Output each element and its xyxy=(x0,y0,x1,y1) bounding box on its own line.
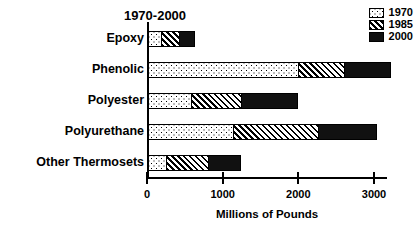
x-axis-tick-3000 xyxy=(373,172,375,184)
category-label-epoxy: Epoxy xyxy=(106,31,144,45)
x-axis-tick-label-3000: 3000 xyxy=(362,188,386,200)
bar-segment-1970[interactable] xyxy=(149,32,162,46)
bar-segment-1970[interactable] xyxy=(149,125,234,139)
x-axis-tick-label-0: 0 xyxy=(144,188,150,200)
bar-segment-2000[interactable] xyxy=(345,63,390,77)
x-axis-line xyxy=(147,177,387,179)
x-axis-title: Millions of Pounds xyxy=(147,208,387,220)
category-label-other-thermosets: Other Thermosets xyxy=(36,155,144,169)
bar-segment-2000[interactable] xyxy=(180,32,194,46)
chart-title: 1970-2000 xyxy=(0,8,310,23)
bar-row-polyurethane[interactable] xyxy=(148,124,377,140)
legend-label-1970: 1970 xyxy=(389,7,413,18)
bar-segment-1970[interactable] xyxy=(149,94,192,108)
plot-area: 0100020003000 xyxy=(147,22,387,177)
dotted-swatch-icon xyxy=(369,8,384,18)
category-label-phenolic: Phenolic xyxy=(92,62,144,76)
bar-segment-1970[interactable] xyxy=(149,63,299,77)
x-axis-tick-label-2000: 2000 xyxy=(286,188,310,200)
category-label-polyester: Polyester xyxy=(88,93,144,107)
bar-row-phenolic[interactable] xyxy=(148,62,391,78)
bar-segment-2000[interactable] xyxy=(209,156,240,170)
bar-segment-2000[interactable] xyxy=(242,94,296,108)
legend-label-1985: 1985 xyxy=(389,19,413,30)
bar-segment-2000[interactable] xyxy=(319,125,376,139)
bar-row-epoxy[interactable] xyxy=(148,31,195,47)
x-axis-tick-0 xyxy=(146,172,148,184)
bar-segment-1985[interactable] xyxy=(234,125,320,139)
x-axis-tick-2000 xyxy=(297,172,299,184)
legend-item-1970: 1970 xyxy=(369,7,413,18)
bar-segment-1985[interactable] xyxy=(167,156,209,170)
x-axis-tick-label-1000: 1000 xyxy=(210,188,234,200)
x-axis-tick-1000 xyxy=(222,172,224,184)
bar-segment-1970[interactable] xyxy=(149,156,167,170)
legend-label-2000: 2000 xyxy=(389,31,413,42)
bar-row-polyester[interactable] xyxy=(148,93,298,109)
bar-chart: 1970-2000 1970 1985 2000 EpoxyPhenolicPo… xyxy=(0,0,417,229)
bar-row-other-thermosets[interactable] xyxy=(148,155,241,171)
bar-segment-1985[interactable] xyxy=(162,32,180,46)
category-label-polyurethane: Polyurethane xyxy=(65,124,144,138)
bar-segment-1985[interactable] xyxy=(192,94,242,108)
bar-segment-1985[interactable] xyxy=(299,63,345,77)
y-axis-category-labels: EpoxyPhenolicPolyesterPolyurethaneOther … xyxy=(0,22,144,177)
